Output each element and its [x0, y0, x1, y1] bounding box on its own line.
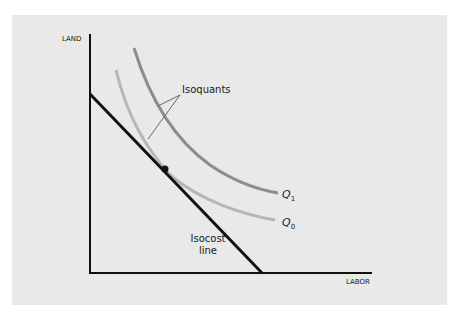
- isoquants-leader-q1: [158, 95, 180, 106]
- isoquant-q1: [134, 48, 278, 193]
- cropped-caption-text: [0, 312, 462, 321]
- isocost-label-line1: Isocost: [190, 233, 225, 244]
- y-axis-label: LAND: [62, 35, 81, 43]
- isocost-line: [90, 94, 262, 273]
- x-axis-label: LABOR: [346, 278, 370, 286]
- q1-label: Q1: [282, 188, 295, 203]
- isoquant-chart: LAND LABOR Isoquants Isocost line Q1 Q0: [0, 0, 462, 321]
- q0-label: Q0: [282, 216, 295, 231]
- isocost-label-line2: line: [199, 245, 217, 256]
- tangent-point: [162, 166, 169, 173]
- isoquants-label: Isoquants: [182, 84, 231, 95]
